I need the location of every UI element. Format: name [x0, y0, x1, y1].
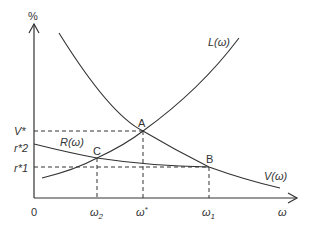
x-tick-omegastar: ω*: [136, 205, 149, 218]
point-B-label: B: [206, 153, 213, 165]
curve-L-label: L(ω): [208, 36, 230, 48]
curve-R-label: R(ω): [60, 136, 84, 148]
point-C-label: C: [93, 145, 101, 157]
origin-label: 0: [31, 206, 37, 218]
diagram-canvas: % ω 0 V* r*2 r*1 ω2 ω* ω1 L(ω) V(ω) R(ω)…: [0, 0, 309, 225]
y-tick-r2: r*2: [14, 142, 28, 154]
x-axis-label: ω: [278, 206, 287, 218]
x-tick-omega2: ω2: [90, 206, 104, 221]
y-axis-label: %: [28, 10, 38, 22]
point-A-label: A: [138, 117, 146, 129]
y-tick-r1: r*1: [14, 162, 28, 174]
x-tick-omega1: ω1: [202, 206, 215, 221]
curve-V-label: V(ω): [264, 170, 288, 182]
y-tick-vstar: V*: [14, 125, 26, 137]
